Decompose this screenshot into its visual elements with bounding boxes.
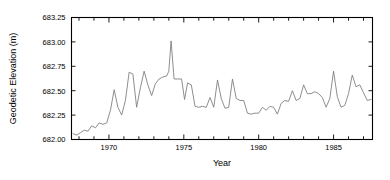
x-axis-tick-labels: 1970197519801985 [101,143,342,152]
y-axis-tick-labels: 682.00682.25682.50682.75683.00683.25 [43,13,66,144]
x-tick-label: 1985 [325,143,342,152]
chart-canvas: 682.00682.25682.50682.75683.00683.25 197… [0,0,390,180]
elevation-series-line [73,41,371,135]
y-axis-ticks [72,18,373,140]
plot-frame [72,18,373,140]
geodetic-elevation-chart: 682.00682.25682.50682.75683.00683.25 197… [0,0,390,180]
y-tick-label: 683.25 [43,13,66,22]
y-tick-label: 683.00 [43,38,66,47]
y-tick-label: 682.00 [43,135,66,144]
x-tick-label: 1975 [175,143,192,152]
x-axis-title: Year [213,158,231,168]
y-axis-title: Geodetic Elevation (m) [8,33,18,125]
y-tick-label: 682.50 [43,87,66,96]
y-tick-label: 682.25 [43,111,66,120]
x-tick-label: 1980 [250,143,267,152]
y-tick-label: 682.75 [43,62,66,71]
x-axis-ticks [79,18,364,140]
x-tick-label: 1970 [101,143,118,152]
